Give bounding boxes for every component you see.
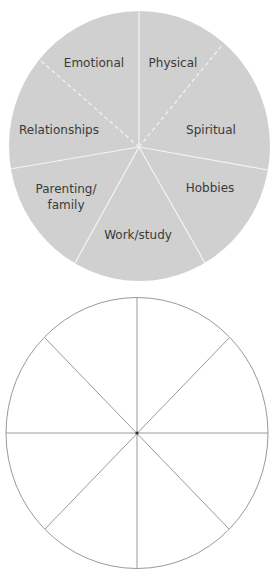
- center-dot: [135, 431, 138, 434]
- filled-wheel: Emotional Physical Relationships Spiritu…: [9, 11, 270, 281]
- segment-label-emotional: Emotional: [64, 56, 124, 70]
- segment-label-parenting: Parenting/: [35, 182, 97, 196]
- segment-label-relationships: Relationships: [19, 123, 99, 137]
- segment-label-physical: Physical: [149, 56, 198, 70]
- segment-label-hobbies: Hobbies: [186, 181, 235, 195]
- segment-label-work-study: Work/study: [104, 228, 172, 242]
- segment-label-family: family: [47, 198, 84, 212]
- segment-label-spiritual: Spiritual: [186, 123, 236, 137]
- wheel-of-life-diagram: Emotional Physical Relationships Spiritu…: [0, 0, 277, 576]
- blank-wheel: [6, 298, 268, 569]
